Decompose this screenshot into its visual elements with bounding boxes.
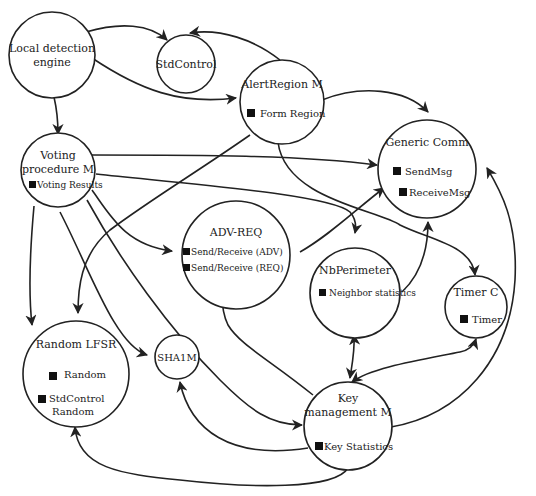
node-title: Timer C	[454, 286, 499, 299]
method-icon	[38, 395, 46, 403]
method-icon	[29, 181, 36, 188]
node-local-detection-engine: Local detection engine	[9, 12, 95, 98]
node-item: Neighbor statistics	[329, 288, 416, 298]
node-voting-procedure-m: Voting procedure M Voting Results	[21, 133, 103, 207]
method-icon	[49, 372, 57, 380]
edge-voting-to-randomlfsr	[30, 206, 34, 325]
node-title: AlertRegion M	[240, 78, 322, 91]
node-adv-req: ADV-REQ Send/Receive (ADV) Send/Receive …	[182, 201, 290, 309]
node-title: Voting	[39, 149, 76, 162]
method-icon	[460, 315, 468, 323]
node-title: engine	[33, 56, 71, 69]
node-generic-comm: Generic Comm SendMsg ReceiveMsg	[378, 120, 476, 218]
node-item: SendMsg	[405, 166, 453, 177]
node-item: Voting Results	[36, 180, 103, 190]
method-icon	[183, 248, 190, 255]
node-item: Random	[52, 406, 95, 417]
node-title: Generic Comm	[385, 136, 469, 149]
node-timer-c: Timer C Timer	[445, 276, 507, 338]
node-title: Key	[338, 392, 359, 405]
node-title: management M	[304, 406, 391, 419]
node-item: Send/Receive (REQ)	[191, 263, 283, 273]
node-stdcontrol: StdControl	[156, 35, 217, 93]
edge-local-to-voting	[54, 97, 58, 134]
node-title: procedure M	[22, 163, 94, 176]
node-item: Form Region	[260, 108, 326, 119]
node-item: Send/Receive (ADV)	[191, 247, 283, 257]
node-item: StdControl	[49, 393, 104, 404]
edge-nbperimeter-to-genericcomm	[402, 222, 428, 292]
node-random-lfsr: Random LFSR Random StdControl Random	[23, 321, 129, 427]
node-title: Random LFSR	[36, 338, 117, 351]
node-item: ReceiveMsg	[409, 187, 471, 198]
node-title: ADV-REQ	[209, 226, 263, 239]
edge-voting-to-advreq	[92, 190, 172, 251]
edge-keymgmt-timerc	[352, 339, 476, 382]
node-item: Random	[64, 369, 107, 380]
edge-advreq-to-genericcomm	[300, 188, 384, 252]
method-icon	[183, 264, 190, 271]
method-icon	[319, 289, 326, 296]
edge-voting-to-genericcomm	[92, 155, 377, 165]
node-title: Local detection	[9, 42, 95, 55]
node-key-management-m: Key management M Key Statistics	[304, 382, 393, 470]
node-nbperimeter: NbPerimeter Neighbor statistics	[310, 248, 416, 338]
method-icon	[399, 188, 407, 196]
node-alertregion-m: AlertRegion M Form Region	[240, 60, 326, 144]
node-sha1m: SHA1M	[155, 335, 199, 379]
node-title: SHA1M	[157, 352, 196, 363]
edge-keymgmt-nbperimeter	[350, 335, 354, 378]
node-item: Key Statistics	[324, 441, 393, 452]
edge-local-to-stdcontrol	[86, 26, 167, 40]
node-item: Timer	[472, 314, 502, 325]
node-title: NbPerimeter	[319, 264, 392, 277]
method-icon	[247, 109, 255, 117]
edge-keymgmt-to-sha1m	[180, 382, 308, 451]
node-title: StdControl	[156, 58, 217, 71]
edge-alertregion-to-genericcomm	[322, 91, 428, 112]
method-icon	[393, 167, 401, 175]
method-icon	[315, 442, 323, 450]
component-diagram: Local detection engine StdControl AlertR…	[0, 0, 536, 496]
